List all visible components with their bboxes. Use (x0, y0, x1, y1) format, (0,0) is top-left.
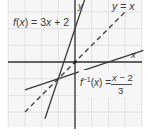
finv-label-denominator: 3 (118, 85, 123, 96)
f-label: f(x) = 3x + 2 (13, 16, 69, 28)
y-equals-x-label: y = x (111, 0, 135, 12)
function-inverse-diagram: f(x) = 3x + 2 y = x y x f−1(x) = x − 2 3 (0, 0, 148, 137)
finv-label-numerator: x − 2 (111, 72, 133, 83)
origin-point (73, 60, 76, 63)
